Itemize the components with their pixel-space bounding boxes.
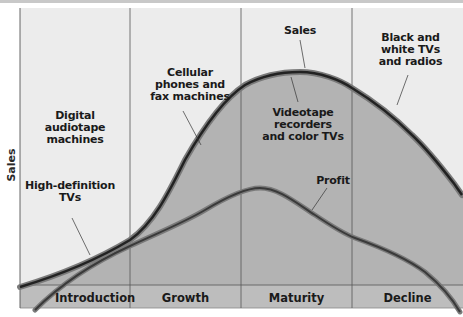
y-axis-label: Sales — [5, 145, 19, 185]
top-rule — [0, 0, 463, 3]
stage-introduction: Introduction — [55, 289, 130, 307]
stage-decline: Decline — [352, 289, 463, 307]
label-videotape: Videotape recorders and color TVs — [258, 107, 348, 143]
label-sales: Sales — [275, 25, 325, 37]
stage-maturity: Maturity — [241, 289, 352, 307]
label-profit: Profit — [308, 175, 358, 187]
label-cellular: Cellular phones and fax machines — [145, 67, 235, 103]
stage-growth: Growth — [130, 289, 241, 307]
label-digital-audiotape: Digital audiotape machines — [35, 110, 115, 146]
label-black-white: Black and white TVs and radios — [368, 32, 453, 68]
label-hdtv: High-definition TVs — [20, 180, 120, 204]
